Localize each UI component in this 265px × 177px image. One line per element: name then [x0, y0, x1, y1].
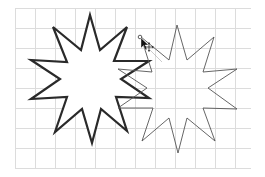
star-shape-bold[interactable] [31, 15, 149, 143]
drawing-canvas[interactable] [0, 0, 265, 177]
